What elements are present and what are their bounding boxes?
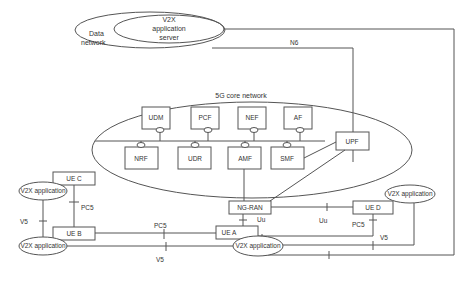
- nf-pcf: PCF: [191, 107, 219, 141]
- svg-text:PCF: PCF: [199, 114, 212, 121]
- app-server-line2: application: [152, 25, 186, 33]
- nf-udm: UDM: [142, 107, 170, 141]
- svg-text:UDM: UDM: [149, 114, 164, 121]
- upf-label: UPF: [346, 138, 359, 145]
- nf-af: AF: [284, 107, 312, 141]
- ue-a-app-label: V2X application: [235, 242, 281, 250]
- n6-link: [212, 48, 353, 162]
- ue-d-label: UE D: [365, 204, 381, 211]
- pc5-label-ueb: PC5: [154, 222, 167, 229]
- nf-smf: SMF: [271, 141, 304, 169]
- uu-label-ued: Uu: [319, 217, 328, 224]
- v5-label-ued: V5: [380, 234, 388, 241]
- ue-c-app-label: V2X application: [20, 187, 66, 195]
- ue-b-label: UE B: [66, 230, 81, 237]
- v5-label-ueb: V5: [156, 256, 164, 263]
- svg-text:UDR: UDR: [188, 155, 202, 162]
- svg-text:NRF: NRF: [134, 155, 147, 162]
- nf-amf: AMF: [228, 141, 261, 169]
- ue-d-app-label: V2X application: [387, 190, 433, 198]
- nf-nrf: NRF: [125, 141, 158, 169]
- ue-a-label: UE A: [222, 229, 237, 236]
- pc5-label-ued: PC5: [352, 221, 365, 228]
- data-network-label-1: Data: [89, 30, 104, 37]
- app-server-line3: server: [159, 34, 179, 41]
- uu-label-uea: Uu: [257, 216, 266, 223]
- ng-ran-label: NG-RAN: [237, 204, 263, 211]
- ue-b-app-label: V2X application: [20, 242, 66, 250]
- app-server-line1: V2X: [162, 16, 176, 23]
- svg-text:AMF: AMF: [238, 155, 252, 162]
- svg-text:AF: AF: [294, 114, 302, 121]
- v5-label-uec: V5: [20, 218, 28, 225]
- nf-nef: NEF: [238, 107, 266, 141]
- v2x-architecture-diagram: Data network V2X application server N6 5…: [0, 0, 472, 281]
- svg-text:NEF: NEF: [246, 114, 259, 121]
- data-network-label-2: network: [81, 39, 106, 46]
- pc5-label-uec: PC5: [81, 204, 94, 211]
- core-network-title: 5G core network: [215, 92, 267, 99]
- ue-c-label: UE C: [66, 175, 82, 182]
- svg-text:SMF: SMF: [280, 155, 294, 162]
- nf-udr: UDR: [178, 141, 211, 169]
- ued-app-v5-link: [281, 203, 414, 245]
- smf-upf-link: [304, 142, 336, 158]
- n6-label: N6: [290, 39, 299, 46]
